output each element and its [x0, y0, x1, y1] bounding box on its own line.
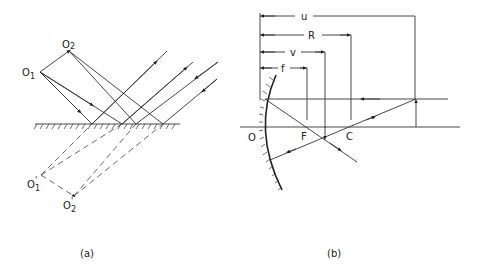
caption-b: (b)	[327, 248, 341, 259]
optics-figure: O1 O2 O1' O2' (a) u R v f	[0, 0, 480, 264]
label-o2-image: O2'	[63, 197, 76, 214]
concave-mirror-hatching	[259, 77, 282, 190]
label-center-c: C	[346, 131, 353, 142]
label-o1-image: O1'	[27, 176, 40, 193]
panel-b-concave-mirror: u R v f	[240, 11, 460, 259]
virtual-ray-4	[74, 124, 163, 196]
label-u: u	[301, 11, 307, 22]
mirror-hatching	[34, 124, 175, 129]
virtual-ray-1	[41, 124, 92, 175]
incident-ray-o2-a	[69, 51, 136, 124]
object-arrow	[40, 51, 69, 72]
label-focus-f: F	[301, 131, 307, 142]
label-o1: O1	[22, 67, 35, 81]
label-o2: O2	[62, 39, 75, 51]
incident-ray-o2-b	[69, 51, 163, 124]
label-r: R	[308, 30, 315, 41]
label-v: v	[290, 47, 296, 58]
concave-mirror	[265, 75, 282, 190]
caption-a: (a)	[80, 248, 94, 259]
virtual-image-arrow	[41, 175, 74, 196]
reflected-ray-through-focus	[265, 99, 357, 162]
label-pole-o: O	[248, 132, 256, 143]
panel-a-plane-mirror: O1 O2 O1' O2' (a)	[22, 39, 218, 259]
label-f: f	[281, 63, 285, 74]
